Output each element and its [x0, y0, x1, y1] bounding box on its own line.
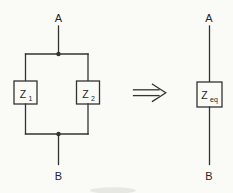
- circuit-diagram: A Z 1 Z 2 B: [0, 0, 233, 193]
- arrow-head: [153, 84, 166, 101]
- junction-dot-top: [56, 52, 60, 56]
- parallel-circuit: A Z 1 Z 2 B: [14, 12, 100, 183]
- circuit-equivalence-figure: A Z 1 Z 2 B: [0, 0, 233, 193]
- z2-label: Z: [82, 88, 89, 100]
- terminal-b-label-right: B: [205, 170, 212, 182]
- terminal-a-label-left: A: [55, 12, 63, 24]
- z1-label: Z: [20, 88, 27, 100]
- zeq-subscript: eq: [210, 96, 218, 104]
- terminal-a-label-right: A: [205, 12, 213, 24]
- terminal-b-label-left: B: [55, 170, 62, 182]
- equivalence-arrow-icon: [134, 84, 166, 101]
- equivalent-circuit: A Z eq B: [197, 12, 222, 183]
- scan-smudge-artifact: [90, 187, 136, 193]
- z2-subscript: 2: [91, 95, 95, 102]
- zeq-label: Z: [201, 89, 208, 101]
- z1-subscript: 1: [29, 95, 33, 102]
